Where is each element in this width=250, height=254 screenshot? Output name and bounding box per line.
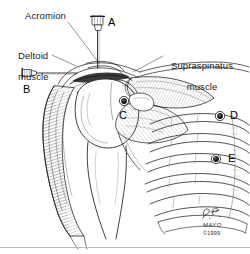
marker-label-c: C xyxy=(119,110,127,121)
artist-signature-mark xyxy=(203,208,221,219)
marker-label-a: A xyxy=(108,17,115,28)
signature-copyright: ©1999 xyxy=(203,230,220,236)
figure-panel: Acromion Deltoid muscle Supraspinatus mu… xyxy=(0,0,250,254)
bottom-divider xyxy=(0,247,250,248)
marker-label-d: D xyxy=(230,110,238,121)
label-supraspinatus-line2: muscle xyxy=(187,81,218,92)
shoulder-anatomy-illustration xyxy=(0,0,250,254)
label-deltoid-line2: muscle xyxy=(18,71,49,82)
label-acromion: Acromion xyxy=(25,11,66,22)
injection-dot-e xyxy=(211,154,220,163)
signature-institution: MAYO xyxy=(203,222,222,229)
label-deltoid-line1: Deltoid xyxy=(18,50,48,61)
injection-dot-c xyxy=(119,96,128,105)
marker-label-b: B xyxy=(23,84,30,95)
label-supraspinatus-line1: Supraspinatus xyxy=(171,60,233,71)
injection-dot-d xyxy=(215,111,224,120)
marker-label-e: E xyxy=(228,153,235,164)
label-supraspinatus-muscle: Supraspinatus muscle xyxy=(160,50,233,103)
leader-lines xyxy=(52,22,163,72)
syringe-a xyxy=(91,16,105,68)
